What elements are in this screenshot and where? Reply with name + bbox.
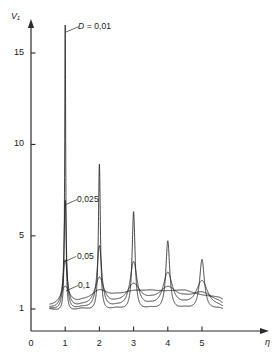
chart-figure: V₁ η 151015 012345 D = 0,010,0250,050,1 [0, 0, 279, 358]
series-annotation-label: 0,1 [78, 280, 90, 290]
series-annotation-label: D = 0,01 [78, 21, 111, 31]
series-curve [50, 25, 223, 309]
x-tick-label: 3 [131, 338, 136, 348]
chart-plot-area [0, 0, 279, 358]
series-annotation-label: 0,05 [77, 251, 94, 261]
y-tick-label: 10 [14, 138, 24, 148]
annotation-leader-line [64, 257, 76, 263]
y-axis-title: V₁ [11, 11, 20, 21]
annotation-leader-line [65, 200, 77, 206]
x-tick-label: 1 [63, 338, 68, 348]
y-tick-label: 15 [14, 47, 24, 57]
series-annotation-label: 0,025 [77, 194, 99, 204]
x-axis-arrow [260, 328, 269, 334]
x-tick-label: 5 [199, 338, 204, 348]
y-axis-arrow [28, 19, 34, 28]
series-curve [50, 200, 223, 307]
x-tick-label: 2 [97, 338, 102, 348]
x-tick-label: 0 [28, 338, 33, 348]
series-curve [50, 286, 223, 304]
x-tick-label: 4 [165, 338, 170, 348]
curves-group [50, 25, 223, 309]
y-tick-label: 1 [19, 303, 24, 313]
x-axis-title: η [265, 337, 270, 347]
y-tick-label: 5 [19, 230, 24, 240]
